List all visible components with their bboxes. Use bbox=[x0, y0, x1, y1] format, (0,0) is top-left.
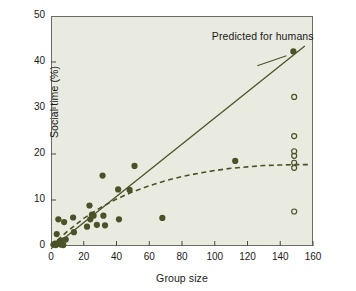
data-point-filled bbox=[70, 214, 76, 220]
data-point-filled bbox=[159, 215, 165, 221]
data-point-filled bbox=[84, 224, 90, 230]
data-point-open bbox=[292, 160, 297, 165]
data-point-filled bbox=[232, 158, 238, 164]
data-point-filled bbox=[61, 219, 67, 225]
data-point-filled bbox=[102, 222, 108, 228]
data-point-filled bbox=[55, 216, 61, 222]
data-point-filled bbox=[131, 163, 137, 169]
data-point-open bbox=[292, 165, 297, 170]
data-point-open bbox=[292, 134, 297, 139]
data-point-filled bbox=[54, 231, 60, 237]
data-point-filled bbox=[127, 187, 133, 193]
y-tick-label: 30 bbox=[13, 101, 45, 112]
y-tick-label: 20 bbox=[13, 147, 45, 158]
data-point-filled bbox=[94, 222, 100, 228]
data-point-filled bbox=[86, 202, 92, 208]
scatter-plot-figure: Social time (%) Group size 0102030405002… bbox=[0, 0, 356, 291]
data-point-filled bbox=[116, 216, 122, 222]
y-axis-title: Social time (%) bbox=[48, 42, 60, 162]
prediction-annotation-label: Predicted for humans bbox=[212, 30, 314, 42]
data-point-open bbox=[292, 209, 297, 214]
data-point-filled bbox=[115, 186, 121, 192]
y-tick-label: 0 bbox=[13, 239, 45, 250]
data-point-open bbox=[292, 94, 297, 99]
y-tick-label: 40 bbox=[13, 55, 45, 66]
data-point-filled bbox=[99, 173, 105, 179]
data-point-filled bbox=[90, 213, 96, 219]
data-point-filled bbox=[100, 213, 106, 219]
y-tick-label: 50 bbox=[13, 9, 45, 20]
data-point-filled bbox=[290, 48, 296, 54]
data-point-filled bbox=[71, 229, 77, 235]
x-tick-label: 160 bbox=[293, 251, 333, 262]
x-axis-title: Group size bbox=[51, 272, 313, 284]
data-point-filled bbox=[63, 236, 69, 242]
data-point-filled bbox=[60, 242, 66, 248]
y-tick-label: 10 bbox=[13, 193, 45, 204]
